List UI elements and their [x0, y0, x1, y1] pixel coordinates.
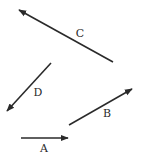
- vector-d-label: D: [34, 87, 43, 98]
- vector-c-label: C: [76, 28, 84, 39]
- vector-line: [19, 10, 113, 62]
- vector-a-label: A: [40, 143, 48, 154]
- vector-line: [7, 63, 51, 111]
- vector-diagram: [0, 0, 141, 158]
- vector-line: [69, 89, 132, 125]
- vector-b-label: B: [103, 108, 111, 119]
- vector-b-arrow: [69, 89, 132, 125]
- vector-c-arrow: [19, 10, 113, 62]
- vector-d-arrow: [7, 63, 51, 111]
